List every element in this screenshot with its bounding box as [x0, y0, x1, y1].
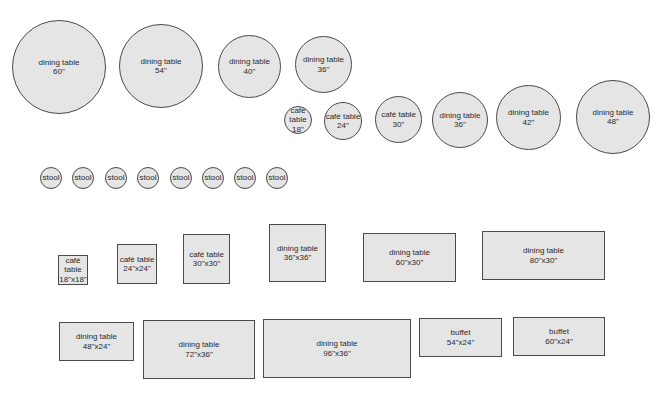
- shape-label: dining table 42": [508, 108, 549, 127]
- shape-label: stool: [75, 173, 92, 183]
- shape-label: dining table 36"x36": [277, 244, 318, 263]
- shape-label: stool: [108, 173, 125, 183]
- round-table-48[interactable]: dining table 48": [576, 80, 650, 154]
- shape-label: café table 24"x24": [120, 255, 155, 274]
- shape-label: buffet 60"x24": [545, 327, 572, 346]
- cafe-table-18[interactable]: café table 18": [284, 106, 312, 134]
- stool[interactable]: stool: [105, 167, 127, 189]
- shape-label: dining table 54": [141, 57, 182, 76]
- round-table-40[interactable]: dining table 40": [218, 35, 281, 98]
- dining-table-60x30[interactable]: dining table 60"x30": [363, 233, 456, 282]
- shape-label: café table 18"x18": [59, 256, 86, 285]
- shape-label: café table 18": [289, 106, 306, 135]
- cafe-table-24x24[interactable]: café table 24"x24": [117, 244, 157, 284]
- shape-label: dining table 48": [593, 108, 634, 127]
- shape-label: dining table 40": [229, 57, 270, 76]
- stool[interactable]: stool: [170, 167, 192, 189]
- round-table-54[interactable]: dining table 54": [119, 24, 203, 108]
- stool[interactable]: stool: [72, 167, 94, 189]
- round-table-36-b[interactable]: dining table 36": [432, 92, 488, 148]
- shape-label: buffet 54"x24": [447, 328, 474, 347]
- cafe-table-30[interactable]: café table 30": [375, 96, 422, 143]
- stool[interactable]: stool: [40, 167, 62, 189]
- cafe-table-18x18[interactable]: café table 18"x18": [58, 255, 88, 285]
- round-table-42[interactable]: dining table 42": [496, 85, 561, 150]
- dining-table-96x36[interactable]: dining table 96"x36": [263, 319, 411, 378]
- shape-label: dining table 36": [440, 111, 481, 130]
- shape-label: dining table 96"x36": [317, 339, 358, 358]
- shape-label: café table 24": [326, 112, 361, 131]
- round-table-60[interactable]: dining table 60": [12, 20, 106, 114]
- shape-label: dining table 60"x30": [389, 248, 430, 267]
- shape-label: dining table 72"x36": [179, 340, 220, 359]
- stool[interactable]: stool: [137, 167, 159, 189]
- cafe-table-24[interactable]: café table 24": [324, 102, 362, 140]
- stool[interactable]: stool: [234, 167, 256, 189]
- shape-label: stool: [173, 173, 190, 183]
- shape-label: dining table 36": [303, 55, 344, 74]
- buffet-60x24[interactable]: buffet 60"x24": [513, 317, 605, 356]
- shape-label: café table 30"x30": [189, 250, 224, 269]
- round-table-36[interactable]: dining table 36": [295, 36, 352, 93]
- stool[interactable]: stool: [202, 167, 224, 189]
- buffet-54x24[interactable]: buffet 54"x24": [419, 318, 502, 357]
- shape-label: stool: [140, 173, 157, 183]
- dining-table-48x24[interactable]: dining table 48"x24": [59, 322, 134, 361]
- shape-label: café table 30": [381, 110, 416, 129]
- shape-label: dining table 80"x30": [523, 246, 564, 265]
- shape-label: dining table 48"x24": [76, 332, 117, 351]
- dining-table-36x36[interactable]: dining table 36"x36": [269, 224, 326, 282]
- shape-label: stool: [205, 173, 222, 183]
- cafe-table-30x30[interactable]: café table 30"x30": [183, 234, 230, 284]
- dining-table-80x30[interactable]: dining table 80"x30": [482, 231, 605, 280]
- shape-label: stool: [269, 173, 286, 183]
- shape-label: stool: [43, 173, 60, 183]
- dining-table-72x36[interactable]: dining table 72"x36": [143, 320, 255, 379]
- shape-label: stool: [237, 173, 254, 183]
- shape-label: dining table 60": [39, 58, 80, 77]
- stool[interactable]: stool: [266, 167, 288, 189]
